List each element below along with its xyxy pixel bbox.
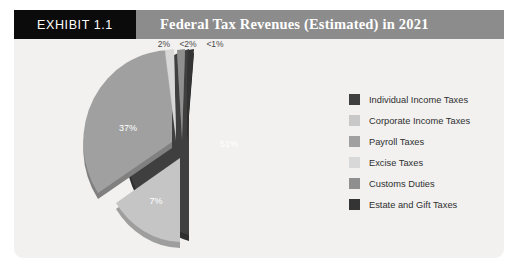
- pie-slice-estate: <1%: [187, 39, 224, 141]
- legend-swatch-icon: [349, 199, 360, 210]
- legend-item-excise-taxes[interactable]: Excise Taxes: [349, 152, 499, 173]
- exhibit-header: EXHIBIT 1.1 Federal Tax Revenues (Estima…: [14, 10, 504, 39]
- legend-item-corporate-income-taxes[interactable]: Corporate Income Taxes: [349, 110, 499, 131]
- page-title: Federal Tax Revenues (Estimated) in 2021: [160, 16, 429, 33]
- legend-label: Customs Duties: [369, 179, 435, 189]
- legend-label: Payroll Taxes: [369, 137, 424, 147]
- pie-label-customs: <2%: [179, 39, 197, 49]
- legend-swatch-icon: [349, 136, 360, 147]
- legend-swatch-icon: [349, 178, 360, 189]
- legend-item-payroll-taxes[interactable]: Payroll Taxes: [349, 131, 499, 152]
- chart-legend: Individual Income Taxes Corporate Income…: [349, 89, 499, 215]
- exhibit-container: EXHIBIT 1.1 Federal Tax Revenues (Estima…: [14, 10, 504, 258]
- pie-label-payroll: 37%: [119, 123, 137, 133]
- exhibit-tag: EXHIBIT 1.1: [14, 10, 136, 39]
- pie-label-corporate: 7%: [149, 196, 162, 206]
- exhibit-title-bar: Federal Tax Revenues (Estimated) in 2021: [136, 10, 504, 39]
- legend-swatch-icon: [349, 94, 360, 105]
- legend-label: Excise Taxes: [369, 158, 423, 168]
- pie-chart-svg: 51% 37% 7% 2%: [24, 39, 344, 258]
- legend-label: Corporate Income Taxes: [369, 116, 470, 126]
- legend-item-individual-income-taxes[interactable]: Individual Income Taxes: [349, 89, 499, 110]
- legend-item-customs-duties[interactable]: Customs Duties: [349, 173, 499, 194]
- pie-label-estate: <1%: [206, 39, 224, 49]
- pie-chart: 51% 37% 7% 2%: [24, 39, 344, 258]
- legend-label: Individual Income Taxes: [369, 95, 468, 105]
- legend-label: Estate and Gift Taxes: [369, 200, 457, 210]
- legend-item-estate-and-gift-taxes[interactable]: Estate and Gift Taxes: [349, 194, 499, 215]
- exhibit-body: 51% 37% 7% 2%: [14, 39, 504, 258]
- legend-swatch-icon: [349, 115, 360, 126]
- exhibit-tag-label: EXHIBIT 1.1: [37, 18, 113, 32]
- pie-label-excise: 2%: [158, 39, 171, 49]
- legend-swatch-icon: [349, 157, 360, 168]
- pie-label-individual: 51%: [220, 139, 238, 149]
